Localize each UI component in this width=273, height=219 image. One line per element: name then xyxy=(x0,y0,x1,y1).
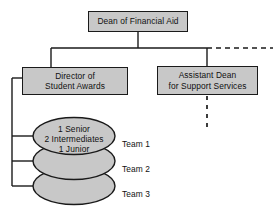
connector-layer xyxy=(0,0,273,219)
team-composition-label: 1 Senior 2 Intermediates 1 Junior xyxy=(33,124,115,155)
node-director-label: Director of Student Awards xyxy=(45,71,105,92)
node-dean-of-financial-aid[interactable]: Dean of Financial Aid xyxy=(88,11,188,32)
node-assistant-dean-label: Assistant Dean for Support Services xyxy=(169,70,247,91)
team-label-3: Team 3 xyxy=(122,189,150,199)
team-label-1: Team 1 xyxy=(122,139,150,149)
node-dean-label: Dean of Financial Aid xyxy=(97,16,178,27)
org-chart: Dean of Financial Aid Director of Studen… xyxy=(0,0,273,219)
team-label-2: Team 2 xyxy=(122,164,150,174)
node-assistant-dean-for-support-services[interactable]: Assistant Dean for Support Services xyxy=(157,66,258,95)
node-director-of-student-awards[interactable]: Director of Student Awards xyxy=(22,67,128,95)
